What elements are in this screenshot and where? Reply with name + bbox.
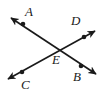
point-label-b: B	[73, 70, 81, 83]
point-label-e: E	[52, 53, 60, 66]
point-d-dot	[82, 35, 87, 40]
point-label-a: A	[25, 5, 33, 18]
point-label-d: D	[71, 14, 80, 27]
point-a-dot	[21, 22, 26, 27]
point-b-dot	[79, 64, 84, 69]
point-c-dot	[20, 70, 25, 75]
figure-canvas	[0, 0, 102, 101]
point-label-c: C	[21, 78, 30, 91]
geometry-figure: A D E B C	[0, 0, 102, 101]
